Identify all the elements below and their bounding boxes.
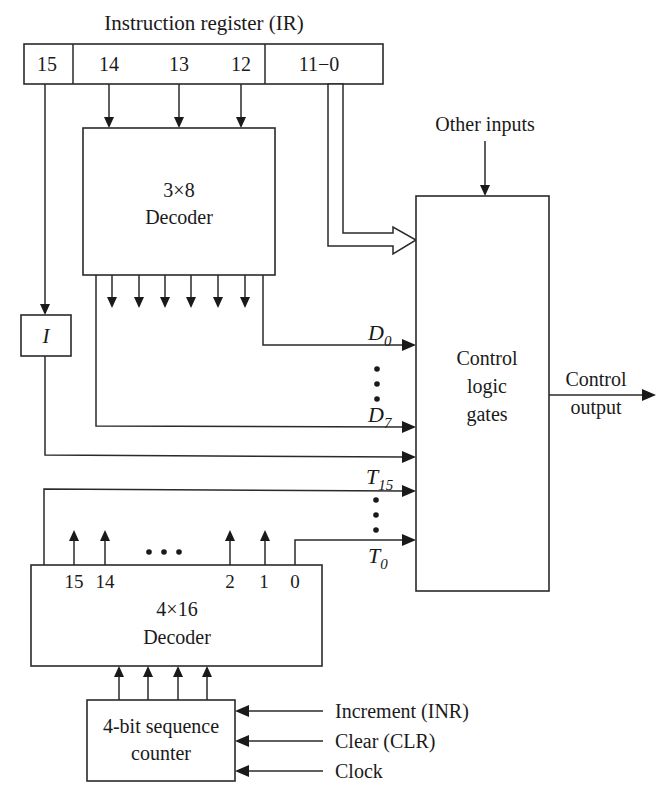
arrow-up-icon (202, 666, 212, 677)
arrow-down-icon (174, 117, 184, 128)
increment-label: Increment (INR) (335, 700, 469, 723)
arrow-right-icon (642, 389, 656, 401)
arrow-down-icon (104, 117, 114, 128)
arrow-up-icon (225, 530, 235, 541)
decoder-4x16-outputs (69, 530, 270, 565)
sequence-counter-label-2: counter (131, 742, 191, 764)
arrow-left-icon (235, 705, 249, 717)
arrow-down-icon (134, 297, 144, 308)
i-flipflop: I (21, 315, 71, 356)
other-inputs-label: Other inputs (435, 113, 535, 136)
arrow-right-icon (402, 339, 416, 351)
arrow-up-icon (100, 530, 110, 541)
control-logic-label-1: Control (456, 347, 518, 369)
sequence-counter-label-1: 4-bit sequence (103, 715, 219, 738)
arrow-down-icon (213, 297, 223, 308)
control-logic-gates: Control logic gates (416, 196, 549, 591)
clear-input: Clear (CLR) (235, 730, 436, 753)
arrow-down-icon (480, 185, 490, 196)
decoder-3x8-label: Decoder (145, 206, 213, 228)
arrow-down-icon (240, 297, 250, 308)
control-logic-label-3: gates (466, 403, 507, 426)
t0-label: T0 (368, 543, 388, 572)
arrow-down-icon (40, 304, 50, 315)
increment-input: Increment (INR) (235, 700, 469, 723)
d0-label: D0 (367, 320, 392, 349)
decoder-output-1: 1 (259, 571, 269, 592)
arrow-left-icon (235, 735, 249, 747)
ir-bit-15: 15 (37, 53, 57, 75)
decoder-output-14: 14 (96, 571, 116, 592)
arrow-down-icon (160, 297, 170, 308)
i-flipflop-label: I (42, 324, 51, 348)
arrow-up-icon (143, 666, 153, 677)
control-unit-diagram: Instruction register (IR) 15 14 13 12 11… (0, 0, 667, 800)
decoder-output-2: 2 (225, 571, 235, 592)
arrow-down-icon (107, 297, 117, 308)
d0-wire (263, 275, 416, 351)
decoder-3x8-outputs (107, 275, 250, 308)
ir-bit-12: 12 (231, 53, 251, 75)
control-output-label-1: Control (565, 368, 627, 390)
arrow-right-icon (402, 485, 416, 497)
control-logic-label-2: logic (467, 375, 507, 398)
arrow-right-icon (402, 534, 416, 546)
d7-label: D7 (367, 402, 393, 431)
ir-bit-13: 13 (169, 53, 189, 75)
counter-to-decoder-wires (114, 666, 212, 700)
arrow-up-icon (69, 530, 79, 541)
decoder-3x8: 3×8 Decoder (83, 128, 275, 275)
ir15-to-i-wire (40, 84, 50, 315)
t15-label: T15 (366, 464, 394, 493)
instruction-register: 15 14 13 12 11−0 (24, 44, 383, 84)
t0-wire (295, 534, 416, 565)
clock-label: Clock (335, 760, 383, 782)
decoder-3x8-size: 3×8 (163, 179, 194, 201)
ir-bit-14: 14 (99, 53, 119, 75)
ir-bits-11-0: 11−0 (299, 53, 340, 75)
vertical-ellipsis-icon (373, 497, 379, 533)
ir-title: Instruction register (IR) (104, 11, 303, 35)
arrow-up-icon (173, 666, 183, 677)
decoder-4x16-size: 4×16 (156, 598, 197, 620)
ir-to-decoder-wires (104, 84, 246, 128)
horizontal-ellipsis-icon (146, 549, 182, 555)
clock-input: Clock (235, 760, 383, 782)
arrow-down-icon (186, 297, 196, 308)
decoder-output-0: 0 (290, 571, 300, 592)
vertical-ellipsis-icon (374, 366, 380, 402)
decoder-4x16-label: Decoder (143, 626, 211, 648)
clear-label: Clear (CLR) (335, 730, 436, 753)
other-inputs-wire (480, 141, 490, 196)
address-bus-arrow (328, 84, 416, 254)
control-output-label-2: output (570, 396, 622, 419)
sequence-counter: 4-bit sequence counter (87, 700, 235, 781)
arrow-up-icon (260, 530, 270, 541)
decoder-4x16: 15 14 2 1 0 4×16 Decoder (31, 565, 322, 666)
arrow-right-icon (402, 451, 416, 463)
arrow-down-icon (236, 117, 246, 128)
arrow-left-icon (235, 765, 249, 777)
arrow-right-icon (402, 421, 416, 433)
decoder-output-15: 15 (65, 571, 84, 592)
arrow-up-icon (114, 666, 124, 677)
i-to-control-wire (45, 356, 416, 463)
